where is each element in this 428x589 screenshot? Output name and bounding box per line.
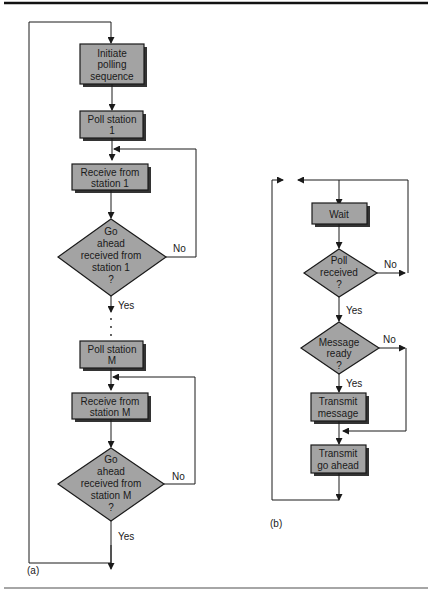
svg-text:Receive from: Receive from <box>81 167 140 178</box>
node-decision-station-M: Go ahead received from station M ? <box>58 448 164 521</box>
label-no-msg: No <box>383 334 396 345</box>
svg-text:ahead: ahead <box>97 238 125 249</box>
ellipsis-dots <box>110 318 112 336</box>
label-no-poll: No <box>384 259 397 270</box>
node-decision-message-ready: Message ready ? <box>301 322 379 374</box>
svg-text:Poll station: Poll station <box>88 344 137 355</box>
svg-text:Receive from: Receive from <box>81 396 140 407</box>
svg-text:M: M <box>108 355 116 366</box>
svg-text:Poll station: Poll station <box>88 114 137 125</box>
label-no-1: No <box>173 243 186 254</box>
svg-text:Go: Go <box>104 226 118 237</box>
svg-text:Wait: Wait <box>329 209 349 220</box>
svg-text:Initiate: Initiate <box>97 48 127 59</box>
svg-text:?: ? <box>336 279 342 290</box>
svg-text:ready: ready <box>326 348 351 359</box>
svg-text:polling: polling <box>98 59 127 70</box>
svg-text:station M: station M <box>91 490 132 501</box>
node-decision-poll-received: Poll received ? <box>304 249 377 297</box>
label-yes-poll: Yes <box>346 305 362 316</box>
svg-text:?: ? <box>108 502 114 513</box>
caption-b: (b) <box>270 518 282 529</box>
diagram-b: Wait Poll received ? No Yes Message read… <box>270 180 408 529</box>
flowchart-canvas: Initiate polling sequence Poll station 1… <box>0 0 428 589</box>
node-poll-station-1: Poll station 1 <box>80 111 146 141</box>
svg-text:station 1: station 1 <box>92 262 130 273</box>
diagram-a: Initiate polling sequence Poll station 1… <box>27 22 196 576</box>
svg-text:go ahead: go ahead <box>317 460 359 471</box>
svg-text:station 1: station 1 <box>91 178 129 189</box>
svg-text:Transmit: Transmit <box>319 396 358 407</box>
svg-text:received from: received from <box>81 478 142 489</box>
node-transmit-message: Transmit message <box>311 393 369 424</box>
node-receive-station-M: Receive from station M <box>72 393 151 422</box>
caption-a: (a) <box>27 565 39 576</box>
svg-text:received: received <box>320 267 358 278</box>
svg-text:Message: Message <box>319 337 360 348</box>
svg-text:Go: Go <box>104 454 118 465</box>
label-yes-M: Yes <box>118 531 134 542</box>
node-decision-station-1: Go ahead received from station 1 ? <box>58 219 166 296</box>
node-receive-station-1: Receive from station 1 <box>72 164 151 193</box>
svg-text:ahead: ahead <box>97 466 125 477</box>
node-initiate: Initiate polling sequence <box>80 44 147 87</box>
node-transmit-go-ahead: Transmit go ahead <box>311 445 369 476</box>
svg-text:1: 1 <box>109 125 115 136</box>
svg-text:received from: received from <box>81 250 142 261</box>
label-yes-msg: Yes <box>346 378 362 389</box>
svg-text:?: ? <box>336 360 342 371</box>
svg-text:?: ? <box>108 274 114 285</box>
svg-text:message: message <box>318 408 359 419</box>
node-wait: Wait <box>312 203 370 227</box>
label-yes-1: Yes <box>118 300 134 311</box>
node-poll-station-M: Poll station M <box>80 341 146 371</box>
svg-text:sequence: sequence <box>90 71 134 82</box>
svg-text:Poll: Poll <box>331 255 348 266</box>
svg-text:Transmit: Transmit <box>319 448 358 459</box>
svg-text:station M: station M <box>90 407 131 418</box>
label-no-M: No <box>172 471 185 482</box>
